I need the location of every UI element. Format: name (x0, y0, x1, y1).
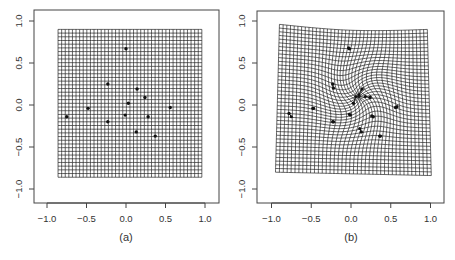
y-tick-label: −1.0 (236, 180, 247, 199)
deformation-grid (275, 24, 431, 175)
landmark-target (358, 127, 361, 130)
landmark-point (372, 115, 375, 118)
landmark-target (332, 87, 335, 90)
y-tick-label: −1.0 (13, 180, 24, 199)
y-tick-label: 1.0 (13, 14, 24, 27)
landmark-point (360, 87, 363, 90)
caption-b: (b) (331, 231, 371, 243)
panel-b: −1.0−0.50.00.51.0−1.0−0.50.00.51.0 (b) (227, 0, 455, 260)
x-tick-label: −0.5 (302, 213, 321, 224)
landmark-point (106, 82, 109, 85)
landmark-point (169, 106, 172, 109)
y-tick-label: −0.5 (236, 138, 247, 157)
grid-line-vertical (397, 30, 401, 175)
y-tick-label: −0.5 (13, 138, 24, 157)
landmark-target (357, 93, 360, 96)
y-axis (29, 21, 34, 189)
landmark-point (287, 112, 290, 115)
landmark-target (354, 95, 357, 98)
landmark-point (154, 134, 157, 137)
x-axis (272, 203, 431, 208)
landmark-target (364, 95, 367, 98)
landmark-point (106, 120, 109, 123)
y-axis (252, 21, 257, 189)
x-tick-label: 0.5 (384, 213, 397, 224)
landmark-point (360, 130, 363, 133)
landmark-point (331, 120, 334, 123)
landmark-point (65, 115, 68, 118)
x-tick-label: 1.0 (198, 213, 211, 224)
y-tick-label: 0.5 (13, 56, 24, 69)
landmark-point (379, 134, 382, 137)
y-tick-label: 1.0 (236, 14, 247, 27)
plot-a: −1.0−0.50.00.51.0−1.0−0.50.00.51.0 (0, 0, 228, 260)
x-tick-label: −1.0 (262, 213, 281, 224)
x-tick-label: 0.5 (159, 213, 172, 224)
x-tick-label: 1.0 (424, 213, 437, 224)
x-tick-label: −0.5 (77, 213, 96, 224)
y-tick-label: 0.0 (13, 98, 24, 111)
landmark-point (311, 107, 314, 110)
landmark-point (348, 47, 351, 50)
landmark-point (124, 113, 127, 116)
x-tick-label: 0.0 (119, 213, 132, 224)
landmark-point (135, 87, 138, 90)
x-axis (47, 203, 205, 208)
grid-line-vertical (382, 31, 390, 175)
landmark-point (143, 96, 146, 99)
landmark-point (368, 96, 371, 99)
landmark-point (394, 106, 397, 109)
x-tick-label: −1.0 (38, 213, 57, 224)
landmark-point (124, 47, 127, 50)
panel-a: −1.0−0.50.00.51.0−1.0−0.50.00.51.0 (a) (0, 0, 228, 260)
landmark-point (127, 102, 130, 105)
y-tick-label: 0.5 (236, 56, 247, 69)
landmark-point (352, 102, 355, 105)
y-tick-label: 0.0 (236, 98, 247, 111)
plot-b: −1.0−0.50.00.51.0−1.0−0.50.00.51.0 (227, 0, 455, 260)
landmark-point (86, 107, 89, 110)
landmark-point (331, 82, 334, 85)
x-tick-label: 0.0 (344, 213, 357, 224)
caption-a: (a) (106, 231, 146, 243)
landmark-point (349, 113, 352, 116)
landmark-point (146, 115, 149, 118)
landmark-target (290, 115, 293, 118)
landmark-point (135, 130, 138, 133)
